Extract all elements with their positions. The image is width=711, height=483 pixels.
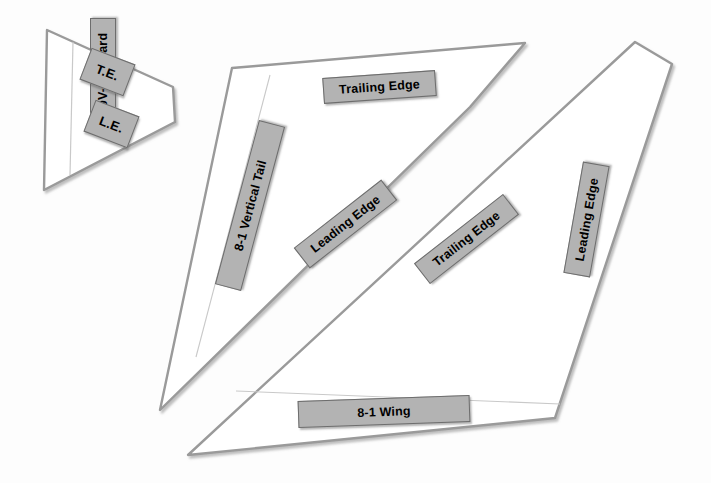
diagram-canvas: 9V-2 Canard T.E. L.E. 8-1 Vertical Tail … <box>0 0 711 483</box>
